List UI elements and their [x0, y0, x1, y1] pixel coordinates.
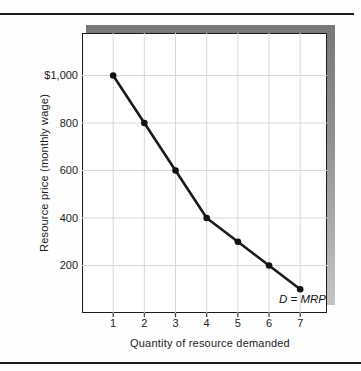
x-tick-label: 3 [165, 317, 187, 329]
x-tick-label: 1 [102, 317, 124, 329]
y-tick-label: 800 [20, 117, 78, 129]
x-tick-label: 4 [196, 317, 218, 329]
x-tick-label: 5 [227, 317, 249, 329]
bottom-rule [0, 362, 361, 364]
y-tick-label: $1,000 [20, 69, 78, 81]
x-tick-label: 2 [133, 317, 155, 329]
x-axis-title: Quantity of resource demanded [130, 337, 290, 349]
plot-area [82, 33, 327, 313]
x-tick-label: 7 [289, 317, 311, 329]
curve-label: D = MRP [279, 293, 326, 305]
y-tick-label: 200 [20, 259, 78, 271]
figure-demand-curve: Resource price (monthly wage) Quantity o… [0, 0, 361, 371]
y-tick-label: 600 [20, 164, 78, 176]
y-tick-label: 400 [20, 212, 78, 224]
x-tick-label: 6 [258, 317, 280, 329]
top-rule [0, 13, 354, 15]
